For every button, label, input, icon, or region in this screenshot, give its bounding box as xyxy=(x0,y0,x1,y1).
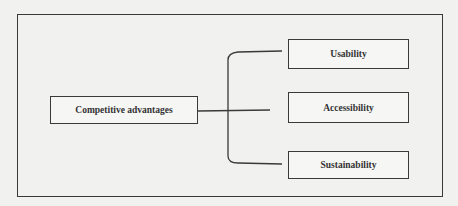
child-node-sustainability: Sustainability xyxy=(288,151,409,179)
bracket-connector xyxy=(228,51,282,164)
child-node-label: Accessibility xyxy=(323,103,374,113)
child-node-usability: Usability xyxy=(288,39,409,69)
child-node-label: Usability xyxy=(330,49,366,59)
root-connector xyxy=(198,110,270,111)
child-node-accessibility: Accessibility xyxy=(288,92,409,123)
root-node: Competitive advantages xyxy=(50,96,198,124)
child-node-label: Sustainability xyxy=(321,160,377,170)
root-node-label: Competitive advantages xyxy=(75,105,172,115)
